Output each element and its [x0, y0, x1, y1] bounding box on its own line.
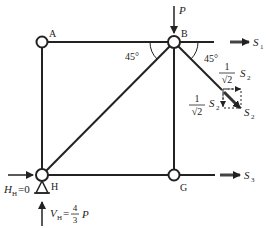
node-label-A: A: [49, 28, 57, 39]
node-label-G: G: [180, 182, 187, 193]
joint-A: [37, 37, 48, 48]
svg-text:H: H: [57, 214, 62, 222]
svg-text:P: P: [81, 208, 89, 220]
angle-label-left: 45°: [125, 51, 139, 62]
svg-text:1: 1: [225, 61, 230, 72]
svg-text:1: 1: [260, 43, 264, 51]
svg-text:4: 4: [73, 203, 78, 213]
load-P-label: P: [178, 4, 186, 16]
node-label-B: B: [181, 28, 188, 39]
svg-text:=: =: [63, 207, 69, 219]
svg-text:3: 3: [73, 215, 78, 225]
joint-H: [36, 169, 48, 181]
truss-diagram: 45° 45° 1 √2 S 2 1 √2 S 2 S 2 P S 1 S 3: [0, 0, 266, 228]
reaction-VH-label: V H = 4 3 P: [50, 203, 89, 225]
S1-label: S 1: [253, 36, 264, 51]
svg-text:2: 2: [216, 104, 220, 112]
svg-text:S: S: [253, 36, 259, 48]
S2-force-arrow: [224, 92, 240, 108]
member-B-diagonal-cut: [174, 42, 222, 90]
member-HB-diagonal: [42, 42, 174, 175]
joint-B: [168, 36, 180, 48]
svg-text:2: 2: [247, 74, 251, 82]
S2-label: S 2: [244, 106, 255, 121]
S3-label: S 3: [244, 169, 255, 184]
joint-G: [169, 170, 180, 181]
angle-arc-right: [191, 42, 198, 59]
S2-horizontal-component-label: 1 √2 S 2: [219, 61, 251, 85]
svg-text:S: S: [244, 106, 250, 118]
svg-text:S: S: [240, 67, 246, 79]
svg-text:√2: √2: [192, 106, 203, 117]
svg-text:=0: =0: [18, 183, 30, 195]
angle-label-right: 45°: [204, 53, 218, 64]
svg-text:S: S: [244, 169, 250, 181]
svg-text:√2: √2: [222, 74, 233, 85]
svg-text:1: 1: [195, 93, 200, 104]
reaction-HH-label: H H =0: [3, 183, 30, 198]
angle-arc-left: [150, 42, 157, 59]
pin-support-triangle: [36, 181, 48, 193]
svg-text:2: 2: [251, 113, 255, 121]
S2-vertical-component-label: 1 √2 S 2: [189, 93, 220, 117]
svg-text:3: 3: [251, 176, 255, 184]
svg-text:S: S: [209, 97, 215, 109]
node-label-H: H: [51, 181, 58, 192]
svg-text:H: H: [12, 190, 17, 198]
